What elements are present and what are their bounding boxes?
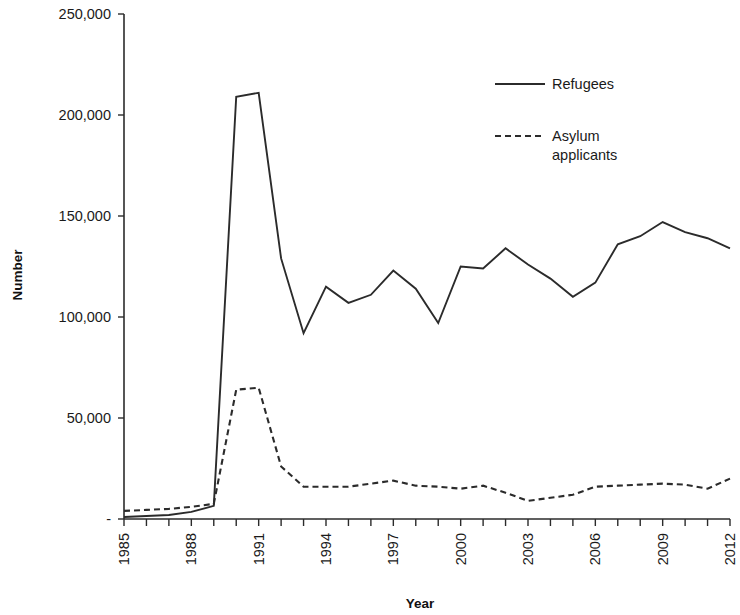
chart-legend: Refugees Asylum applicants xyxy=(495,76,617,163)
y-tick-label: 200,000 xyxy=(59,107,111,123)
x-axis-title: Year xyxy=(406,596,435,611)
legend-label-refugees: Refugees xyxy=(552,76,614,92)
y-axis-ticks: 250,000200,000150,000100,00050,000- xyxy=(59,6,124,527)
y-axis-title: Number xyxy=(10,249,25,301)
x-tick-label: 1997 xyxy=(385,533,401,565)
x-tick-label: 2000 xyxy=(453,533,469,565)
x-tick-label: 1985 xyxy=(116,533,132,565)
y-tick-label: - xyxy=(106,511,111,527)
line-chart: 250,000200,000150,000100,00050,000- 1985… xyxy=(0,0,740,615)
x-tick-label: 1994 xyxy=(318,533,334,565)
x-tick-label: 2012 xyxy=(722,533,738,565)
series-line-refugees xyxy=(124,93,730,517)
x-axis-ticks: 1985198819911994199720002003200620092012 xyxy=(116,519,738,565)
y-tick-label: 150,000 xyxy=(59,208,111,224)
x-tick-label: 1991 xyxy=(251,533,267,565)
series-group xyxy=(124,93,730,517)
legend-label-asylum-applicants: Asylum xyxy=(552,128,600,144)
x-tick-label: 1988 xyxy=(183,533,199,565)
x-tick-label: 2003 xyxy=(520,533,536,565)
x-tick-label: 2006 xyxy=(587,533,603,565)
y-tick-label: 50,000 xyxy=(67,410,111,426)
y-tick-label: 250,000 xyxy=(59,6,111,22)
x-tick-label: 2009 xyxy=(655,533,671,565)
y-tick-label: 100,000 xyxy=(59,309,111,325)
legend-label-asylum-applicants-line2: applicants xyxy=(552,147,617,163)
chart-container: 250,000200,000150,000100,00050,000- 1985… xyxy=(0,0,740,615)
